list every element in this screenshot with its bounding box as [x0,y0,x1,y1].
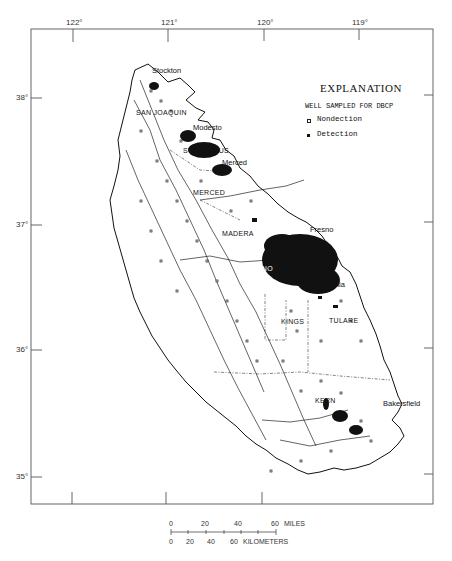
place-modesto: Modesto [193,123,222,132]
place-merced: Merced [222,158,247,167]
county-merced: MERCED [193,189,225,196]
longitude-label-119: 119° [352,18,368,27]
place-fresno: Fresno [310,225,333,234]
county-stanislaus: STANISLAUS [183,147,229,154]
latitude-label-37: 37° [16,220,28,229]
longitude-label-121: 121° [161,18,178,27]
place-visalia: Visalia [323,280,345,289]
county-fresno: FRESNO [242,265,273,272]
scale-km-20: 20 [186,538,194,545]
scale-miles-0: 0 [169,520,173,527]
scale-miles-unit: MILES [284,520,305,527]
legend-item-nondetection: Nondection [317,115,362,123]
longitude-label-120: 120° [257,18,274,27]
scale-miles-60: 60 [271,520,279,527]
longitude-label-122: 122° [66,18,83,27]
filled-square-icon [307,134,310,137]
latitude-label-35: 35° [16,472,28,481]
latitude-label-36: 36° [16,345,28,354]
legend-item-detection: Detection [317,130,358,138]
place-stockton: Stockton [152,66,181,75]
legend-title: EXPLANATION [320,82,402,94]
scale-miles-20: 20 [201,520,209,527]
latitude-label-38: 38° [16,93,28,102]
scale-miles-40: 40 [234,520,242,527]
scale-km-unit: KILOMETERS [243,538,288,545]
county-kern: KERN [315,397,336,404]
county-san-joaquin: SAN JOAQUIN [136,109,187,116]
scale-km-40: 40 [207,538,215,545]
scale-km-60: 60 [230,538,238,545]
legend-subtitle: WELL SAMPLED FOR DBCP [305,102,393,110]
place-bakersfield: Bakersfield [383,399,420,408]
county-madera: MADERA [222,230,254,237]
scale-bar [171,529,276,535]
scale-km-0: 0 [169,538,173,545]
county-tulare: TULARE [329,317,358,324]
county-kings: KINGS [281,318,304,325]
open-square-icon [307,119,311,123]
